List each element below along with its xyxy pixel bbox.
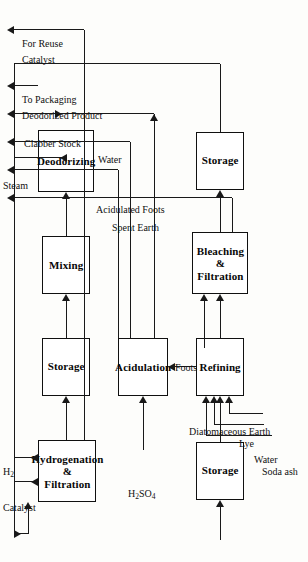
label-water-in-text: Water bbox=[254, 454, 278, 465]
label-h2so4: H2SO4 bbox=[128, 488, 156, 500]
label-water-out: Water bbox=[98, 154, 122, 166]
arrowhead-deodorized-product bbox=[7, 82, 14, 90]
label-clabber-stock: Clabber Stock bbox=[24, 138, 81, 150]
arrowhead-acidulated-foots bbox=[7, 166, 14, 174]
label-foots-text: Foots bbox=[175, 362, 197, 373]
label-lye: Lye bbox=[239, 438, 254, 450]
flow-spent-earth-branch bbox=[232, 198, 233, 232]
arrowhead-return-corner bbox=[14, 530, 21, 538]
arrowhead-lye-in bbox=[225, 396, 233, 403]
box-bleaching-filtration-label: Bleaching & Filtration bbox=[196, 245, 243, 282]
feed-lye-vertical bbox=[229, 413, 263, 414]
label-h2so4-sub2: 4 bbox=[152, 492, 156, 501]
label-lye-text: Lye bbox=[239, 438, 254, 449]
box-mixing: Mixing bbox=[42, 236, 90, 294]
box-storage-hydrogenated: Storage bbox=[42, 338, 90, 396]
arrowhead-soda-ash bbox=[202, 396, 210, 403]
box-acidulation: Acidulation bbox=[118, 338, 168, 396]
arrowhead-catalyst-in bbox=[31, 478, 38, 486]
flow-storage-to-mixing bbox=[66, 301, 67, 338]
label-hydrogen-in-sub: 2 bbox=[10, 470, 14, 479]
arrowhead-storage-to-mixing bbox=[62, 294, 70, 301]
label-acidulated-foots-text: Acidulated Foots bbox=[96, 204, 165, 215]
label-spent-earth: Spent Earth bbox=[112, 222, 159, 234]
flow-catalyst-recovery-out bbox=[84, 30, 85, 440]
label-catalyst-for-reuse-2: For Reuse bbox=[22, 38, 63, 50]
label-catalyst-in-text: Catalyst bbox=[3, 502, 36, 513]
label-acidulated-foots: Acidulated Foots bbox=[96, 204, 165, 216]
flow-water-out-branch bbox=[130, 142, 131, 338]
label-catalyst-reuse-2: For Reuse bbox=[22, 38, 63, 49]
box-hydrogenation-filtration-label: Hydrogenation & Filtration bbox=[31, 453, 103, 490]
box-bleaching-filtration: Bleaching & Filtration bbox=[192, 232, 248, 294]
label-steam-text: Steam bbox=[3, 180, 28, 191]
arrowhead-foots-to-acidulation bbox=[168, 363, 175, 371]
label-catalyst-for-reuse: Catalyst bbox=[22, 54, 55, 66]
flow-hydrogenation-to-storage bbox=[66, 403, 67, 440]
flow-storage-to-hydrogenation-top bbox=[220, 64, 221, 132]
flow-spent-earth-riser bbox=[14, 197, 232, 198]
arrowhead-refining-to-bleaching bbox=[216, 294, 224, 301]
box-storage-bleached: Storage bbox=[196, 132, 244, 190]
arrowhead-mixing-to-deodorizing bbox=[62, 192, 70, 199]
label-h2so4-sub1: 2 bbox=[135, 492, 139, 501]
flow-acidulated-foots-branch bbox=[118, 170, 119, 338]
diagram-stage: Storage Refining Bleaching & Filtration … bbox=[0, 0, 308, 562]
label-h2so4-so: SO bbox=[139, 488, 152, 499]
label-diatomaceous-earth: Diatomaceous Earth bbox=[189, 426, 270, 438]
label-soda-ash-text: Soda ash bbox=[262, 466, 298, 477]
flow-catalyst-recovery-riser bbox=[14, 29, 84, 30]
flow-deodorized-product-riser bbox=[14, 85, 38, 86]
box-hydrogenation-filtration: Hydrogenation & Filtration bbox=[38, 440, 96, 502]
box-storage-crude: Storage bbox=[196, 442, 244, 500]
label-water-out-text: Water bbox=[98, 154, 122, 165]
arrowhead-crude-to-storage bbox=[216, 500, 224, 507]
process-flow-diagram: Storage Refining Bleaching & Filtration … bbox=[0, 0, 308, 562]
box-mixing-label: Mixing bbox=[49, 259, 83, 271]
label-deodorized-product: Deodorized Product bbox=[22, 110, 102, 122]
label-to-packaging: To Packaging bbox=[22, 94, 77, 106]
flow-refining-to-bleaching bbox=[220, 301, 221, 338]
feed-diatomaceous-earth-line bbox=[204, 301, 205, 348]
flow-crude-to-storage bbox=[220, 507, 221, 540]
label-soda-ash: Soda ash bbox=[262, 466, 298, 478]
label-clabber-stock-text: Clabber Stock bbox=[24, 138, 81, 149]
arrowhead-water-out bbox=[7, 138, 14, 146]
label-steam: Steam bbox=[3, 180, 28, 192]
label-foots: Foots bbox=[175, 362, 197, 374]
arrowhead-h2so4 bbox=[139, 396, 147, 403]
arrowhead-spent-earth bbox=[7, 194, 14, 202]
label-catalyst-in: Catalyst bbox=[3, 502, 36, 514]
arrowhead-clabber-stock bbox=[7, 110, 14, 118]
arrowhead-clabber-stock-join bbox=[150, 114, 158, 121]
box-storage-bleached-label: Storage bbox=[202, 155, 239, 167]
flow-mixing-to-deodorizing bbox=[66, 199, 67, 236]
feed-lye-horizontal bbox=[229, 403, 230, 414]
box-acidulation-label: Acidulation bbox=[115, 361, 171, 373]
feed-steam-line bbox=[14, 157, 66, 158]
flow-bleaching-to-storage bbox=[220, 197, 221, 232]
label-spent-earth-text: Spent Earth bbox=[112, 222, 159, 233]
arrowhead-hydrogenation-to-storage bbox=[62, 396, 70, 403]
label-deodorized-product-text: Deodorized Product bbox=[22, 110, 102, 121]
box-storage-hydrogenated-label: Storage bbox=[48, 361, 85, 373]
flow-storage-to-hydrogenation-return bbox=[14, 64, 15, 534]
flow-storage-to-hydrogenation-riser bbox=[66, 63, 220, 64]
label-to-packaging-text: To Packaging bbox=[22, 94, 77, 105]
label-water-in: Water bbox=[254, 454, 278, 466]
label-catalyst-reuse-1: Catalyst bbox=[22, 54, 55, 65]
box-storage-crude-label: Storage bbox=[202, 465, 239, 477]
label-diatomaceous-earth-text: Diatomaceous Earth bbox=[189, 426, 270, 437]
arrowhead-water-in bbox=[210, 396, 218, 403]
label-hydrogen-in: H2 bbox=[3, 466, 14, 478]
feed-h2so4-line bbox=[143, 403, 144, 450]
feed-water-vertical bbox=[214, 424, 264, 425]
box-refining-label: Refining bbox=[199, 361, 240, 373]
arrowhead-diatomaceous-earth bbox=[200, 294, 208, 301]
feed-water-horizontal bbox=[214, 403, 215, 425]
arrowhead-steam-in bbox=[60, 154, 67, 162]
arrowhead-bleaching-to-storage bbox=[216, 190, 224, 197]
arrowhead-catalyst-reuse bbox=[7, 26, 14, 34]
arrowhead-hydrogen-in bbox=[31, 454, 38, 462]
flow-acidulated-foots-riser bbox=[14, 169, 118, 170]
